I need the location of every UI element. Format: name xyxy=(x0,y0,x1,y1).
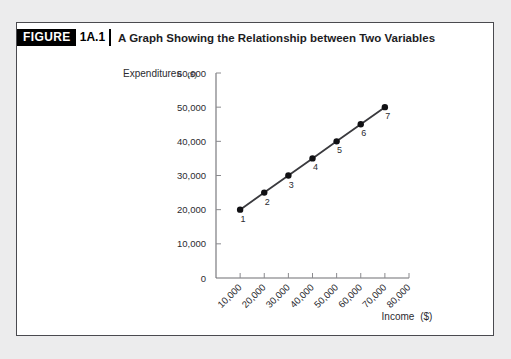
data-point-label: 4 xyxy=(313,162,318,172)
data-point-label: 5 xyxy=(337,145,342,155)
data-point xyxy=(382,104,388,110)
data-point-label: 1 xyxy=(241,214,246,224)
data-point-label: 6 xyxy=(361,128,366,138)
x-tick-label: 20,000 xyxy=(239,282,267,310)
data-point xyxy=(358,121,364,127)
y-tick-label: 50,000 xyxy=(177,102,206,113)
y-axis xyxy=(216,73,221,278)
x-tick-label: 10,000 xyxy=(215,282,243,310)
y-tick-label: 30,000 xyxy=(177,170,206,181)
x-tick-label: 40,000 xyxy=(288,282,316,310)
x-tick-labels: 10,00020,00030,00040,00050,00060,00070,0… xyxy=(215,282,412,310)
x-axis xyxy=(216,273,409,278)
data-point xyxy=(309,155,315,161)
data-point xyxy=(261,189,267,195)
x-tick-label: 80,000 xyxy=(384,282,412,310)
x-tick-label: 30,000 xyxy=(263,282,291,310)
y-tick-label: 0 xyxy=(201,273,206,284)
x-tick-label: 60,000 xyxy=(336,282,364,310)
x-axis-title: Income ($) xyxy=(382,311,433,322)
x-tick-label: 50,000 xyxy=(312,282,340,310)
data-point xyxy=(333,138,339,144)
figure-panel: FIGURE 1A.1 A Graph Showing the Relation… xyxy=(16,22,494,336)
line-chart: 010,00020,00030,00040,00050,00060,000 10… xyxy=(17,23,495,337)
y-tick-label: 40,000 xyxy=(177,136,206,147)
y-tick-label: 10,000 xyxy=(177,238,206,249)
data-point-label: 3 xyxy=(289,180,294,190)
data-point xyxy=(285,172,291,178)
data-point-label: 7 xyxy=(385,111,390,121)
data-point-labels: 1234567 xyxy=(241,111,391,224)
data-point-label: 2 xyxy=(265,197,270,207)
y-tick-labels: 010,00020,00030,00040,00050,00060,000 xyxy=(177,68,206,284)
chart-plot-area: 010,00020,00030,00040,00050,00060,000 10… xyxy=(17,23,495,337)
y-tick-label: 20,000 xyxy=(177,204,206,215)
x-tick-label: 70,000 xyxy=(360,282,388,310)
figure-root: FIGURE 1A.1 A Graph Showing the Relation… xyxy=(0,0,511,359)
data-point xyxy=(237,206,243,212)
